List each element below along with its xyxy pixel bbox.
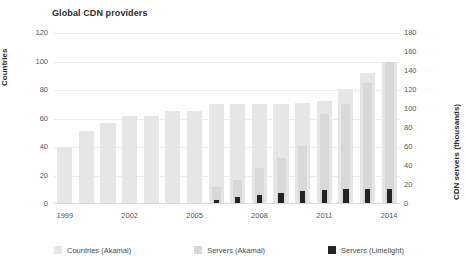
bar-group (314, 33, 336, 204)
bar-group (357, 33, 379, 204)
legend-item-label: Countries (Akamai) (67, 246, 131, 255)
legend-item[interactable]: Servers (Akamai) (194, 246, 265, 255)
y-tick-label-right: 80 (404, 123, 444, 132)
square-swatch-icon (194, 246, 202, 254)
legend-item[interactable]: Servers (Limelight) (328, 246, 404, 255)
bar-group (205, 33, 227, 204)
y-tick-label-left: 0 (8, 199, 48, 208)
bar-group (227, 33, 249, 204)
bar-countries-akamai (165, 111, 180, 204)
bar-group (162, 33, 184, 204)
y-tick-label-left: 100 (8, 57, 48, 66)
bar-countries-akamai (100, 123, 115, 204)
bar-servers-limelight (300, 191, 305, 204)
x-tick-label: 2005 (186, 211, 203, 220)
bar-group (97, 33, 119, 204)
bar-countries-akamai (57, 147, 72, 204)
x-tick-label: 1999 (56, 211, 73, 220)
x-tick-label: 2014 (381, 211, 398, 220)
square-swatch-icon (328, 246, 336, 254)
bar-servers-limelight (365, 189, 370, 204)
bar-group (378, 33, 400, 204)
y-tick-label-right: 120 (404, 85, 444, 94)
y-tick-label-left: 20 (8, 171, 48, 180)
x-tick-label: 2011 (316, 211, 332, 220)
bar-group (141, 33, 163, 204)
y-tick-label-left: 40 (8, 142, 48, 151)
plot-area (54, 33, 400, 204)
y-tick-label-right: 40 (404, 161, 444, 170)
bar-group (184, 33, 206, 204)
y-tick-label-right: 180 (404, 28, 444, 37)
y-axis-title-right: CDN servers (thousands) (452, 104, 461, 200)
chart-title: Global CDN providers (52, 8, 148, 18)
bar-group (249, 33, 271, 204)
bar-group (119, 33, 141, 204)
bar-servers-limelight (387, 189, 392, 204)
bar-servers-limelight (322, 190, 327, 204)
y-axis-title-left: Countries (0, 49, 9, 86)
bar-servers-akamai (363, 83, 372, 204)
square-swatch-icon (54, 246, 62, 254)
y-tick-label-left: 120 (8, 28, 48, 37)
y-tick-label-right: 160 (404, 47, 444, 56)
y-tick-label-right: 0 (404, 199, 444, 208)
legend-item[interactable]: Countries (Akamai) (54, 246, 131, 255)
y-tick-label-right: 20 (404, 180, 444, 189)
x-tick-label: 2002 (121, 211, 138, 220)
legend-item-label: Servers (Akamai) (207, 246, 265, 255)
bar-group (335, 33, 357, 204)
bar-group (270, 33, 292, 204)
x-tick-label: 2008 (251, 211, 268, 220)
bar-countries-akamai (122, 116, 137, 204)
bar-servers-limelight (343, 189, 348, 204)
bar-countries-akamai (79, 131, 94, 204)
bar-countries-akamai (144, 116, 159, 204)
bar-group (76, 33, 98, 204)
bar-group (54, 33, 76, 204)
y-tick-label-left: 60 (8, 114, 48, 123)
bar-countries-akamai (187, 111, 202, 204)
chart-container: Global CDN providers Countries CDN serve… (0, 0, 467, 269)
chart-legend: Countries (Akamai)Servers (Akamai)Server… (54, 242, 404, 258)
bar-servers-akamai (385, 62, 394, 205)
y-tick-label-right: 60 (404, 142, 444, 151)
legend-item-label: Servers (Limelight) (341, 246, 404, 255)
y-tick-label-left: 80 (8, 85, 48, 94)
bar-group (292, 33, 314, 204)
y-tick-label-right: 100 (404, 104, 444, 113)
axis-baseline (54, 203, 400, 204)
y-tick-label-right: 140 (404, 66, 444, 75)
